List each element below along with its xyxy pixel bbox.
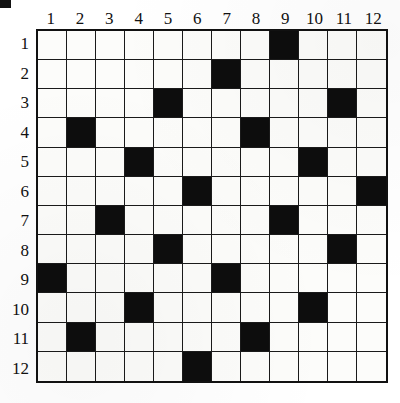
grid-cell-r7-c1[interactable] (38, 206, 67, 235)
grid-cell-r10-c2[interactable] (67, 293, 96, 322)
grid-cell-r7-c9[interactable] (270, 206, 299, 235)
grid-cell-r11-c7[interactable] (212, 323, 241, 352)
grid-cell-r8-c1[interactable] (38, 235, 67, 264)
grid-cell-r10-c7[interactable] (212, 293, 241, 322)
grid-cell-r10-c5[interactable] (154, 293, 183, 322)
grid-cell-r1-c8[interactable] (241, 31, 270, 60)
grid-cell-r5-c5[interactable] (154, 148, 183, 177)
grid-cell-r5-c11[interactable] (328, 148, 357, 177)
grid-cell-r5-c3[interactable] (96, 148, 125, 177)
grid-cell-r2-c10[interactable] (299, 60, 328, 89)
grid-cell-r6-c10[interactable] (299, 177, 328, 206)
grid-cell-r4-c7[interactable] (212, 118, 241, 147)
grid-cell-r8-c3[interactable] (96, 235, 125, 264)
grid-cell-r9-c11[interactable] (328, 264, 357, 293)
grid-cell-r3-c11[interactable] (328, 89, 357, 118)
grid-cell-r10-c3[interactable] (96, 293, 125, 322)
grid-cell-r12-c2[interactable] (67, 352, 96, 381)
grid-cell-r3-c5[interactable] (154, 89, 183, 118)
grid-cell-r8-c4[interactable] (125, 235, 154, 264)
grid-cell-r6-c12[interactable] (357, 177, 386, 206)
grid-cell-r2-c8[interactable] (241, 60, 270, 89)
grid-cell-r5-c6[interactable] (183, 148, 212, 177)
grid-cell-r6-c4[interactable] (125, 177, 154, 206)
grid-cell-r12-c5[interactable] (154, 352, 183, 381)
grid-cell-r5-c7[interactable] (212, 148, 241, 177)
grid-cell-r6-c2[interactable] (67, 177, 96, 206)
grid-cell-r5-c2[interactable] (67, 148, 96, 177)
grid-cell-r9-c4[interactable] (125, 264, 154, 293)
grid-cell-r4-c3[interactable] (96, 118, 125, 147)
grid-cell-r11-c8[interactable] (241, 323, 270, 352)
grid-cell-r10-c8[interactable] (241, 293, 270, 322)
grid-cell-r11-c1[interactable] (38, 323, 67, 352)
grid-cell-r2-c2[interactable] (67, 60, 96, 89)
grid-cell-r4-c11[interactable] (328, 118, 357, 147)
grid-cell-r4-c4[interactable] (125, 118, 154, 147)
grid-cell-r10-c10[interactable] (299, 293, 328, 322)
grid-cell-r4-c8[interactable] (241, 118, 270, 147)
grid-cell-r2-c11[interactable] (328, 60, 357, 89)
grid-cell-r4-c9[interactable] (270, 118, 299, 147)
grid-cell-r5-c4[interactable] (125, 148, 154, 177)
grid-cell-r8-c6[interactable] (183, 235, 212, 264)
grid-cell-r1-c3[interactable] (96, 31, 125, 60)
grid-cell-r6-c3[interactable] (96, 177, 125, 206)
grid-cell-r7-c8[interactable] (241, 206, 270, 235)
grid-cell-r3-c12[interactable] (357, 89, 386, 118)
grid-cell-r9-c12[interactable] (357, 264, 386, 293)
grid-cell-r10-c1[interactable] (38, 293, 67, 322)
grid-cell-r11-c3[interactable] (96, 323, 125, 352)
grid-cell-r2-c4[interactable] (125, 60, 154, 89)
grid-cell-r11-c5[interactable] (154, 323, 183, 352)
grid-cell-r11-c10[interactable] (299, 323, 328, 352)
grid-cell-r9-c5[interactable] (154, 264, 183, 293)
grid-cell-r7-c10[interactable] (299, 206, 328, 235)
grid-cell-r3-c2[interactable] (67, 89, 96, 118)
grid-cell-r2-c5[interactable] (154, 60, 183, 89)
grid-cell-r2-c7[interactable] (212, 60, 241, 89)
grid-cell-r9-c1[interactable] (38, 264, 67, 293)
grid-cell-r2-c6[interactable] (183, 60, 212, 89)
grid-cell-r6-c5[interactable] (154, 177, 183, 206)
grid-cell-r4-c5[interactable] (154, 118, 183, 147)
grid-cell-r5-c9[interactable] (270, 148, 299, 177)
grid-cell-r12-c9[interactable] (270, 352, 299, 381)
grid-cell-r6-c6[interactable] (183, 177, 212, 206)
grid-cell-r8-c7[interactable] (212, 235, 241, 264)
grid-cell-r2-c3[interactable] (96, 60, 125, 89)
grid-cell-r9-c8[interactable] (241, 264, 270, 293)
grid-cell-r3-c9[interactable] (270, 89, 299, 118)
grid-cell-r5-c10[interactable] (299, 148, 328, 177)
grid-cell-r6-c1[interactable] (38, 177, 67, 206)
grid-cell-r3-c3[interactable] (96, 89, 125, 118)
grid-cell-r9-c10[interactable] (299, 264, 328, 293)
grid-cell-r5-c1[interactable] (38, 148, 67, 177)
grid-cell-r12-c3[interactable] (96, 352, 125, 381)
grid-cell-r10-c4[interactable] (125, 293, 154, 322)
grid-cell-r1-c7[interactable] (212, 31, 241, 60)
grid-cell-r2-c12[interactable] (357, 60, 386, 89)
grid-cell-r8-c5[interactable] (154, 235, 183, 264)
grid-cell-r3-c7[interactable] (212, 89, 241, 118)
grid-cell-r10-c9[interactable] (270, 293, 299, 322)
grid-cell-r5-c12[interactable] (357, 148, 386, 177)
grid-cell-r10-c12[interactable] (357, 293, 386, 322)
grid-cell-r3-c10[interactable] (299, 89, 328, 118)
grid-cell-r11-c11[interactable] (328, 323, 357, 352)
grid-cell-r11-c4[interactable] (125, 323, 154, 352)
grid-cell-r8-c2[interactable] (67, 235, 96, 264)
grid-cell-r9-c2[interactable] (67, 264, 96, 293)
grid-cell-r1-c2[interactable] (67, 31, 96, 60)
grid-cell-r7-c2[interactable] (67, 206, 96, 235)
grid-cell-r1-c6[interactable] (183, 31, 212, 60)
grid-cell-r8-c11[interactable] (328, 235, 357, 264)
grid-cell-r3-c6[interactable] (183, 89, 212, 118)
grid-cell-r8-c8[interactable] (241, 235, 270, 264)
grid-cell-r3-c8[interactable] (241, 89, 270, 118)
grid-cell-r6-c8[interactable] (241, 177, 270, 206)
grid-cell-r12-c10[interactable] (299, 352, 328, 381)
grid-cell-r3-c1[interactable] (38, 89, 67, 118)
grid-cell-r12-c1[interactable] (38, 352, 67, 381)
grid-cell-r6-c7[interactable] (212, 177, 241, 206)
